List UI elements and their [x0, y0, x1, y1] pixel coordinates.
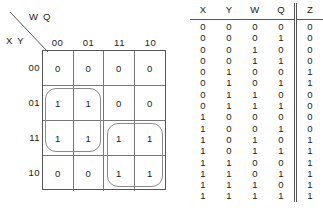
- truth-table-cell-y: 0: [216, 123, 242, 134]
- truth-table-row: 00100: [190, 44, 323, 55]
- kmap-cell: 0: [135, 86, 165, 121]
- karnaugh-map-figure: W Q X Y 00 01 11 10 00 01 11 10 0 0 0 0 …: [0, 0, 180, 219]
- kmap-column-header-2: 11: [104, 36, 135, 49]
- truth-table-cell-q: 0: [268, 157, 296, 168]
- truth-table-row: 00010: [190, 32, 323, 43]
- truth-table-cell-q: 0: [268, 111, 296, 122]
- truth-table-row: 01110: [190, 100, 323, 111]
- truth-table-cell-x: 0: [190, 89, 216, 100]
- kmap-row-header-1: 01: [10, 85, 40, 120]
- truth-table-cell-q: 0: [268, 134, 296, 145]
- kmap-column-variable-label: W Q: [29, 12, 52, 22]
- truth-table-cell-z: 0: [296, 55, 323, 66]
- kmap-grid-row: 0 0 0 0: [43, 51, 165, 86]
- kmap-cell: 1: [43, 86, 74, 121]
- truth-table-cell-w: 1: [242, 145, 268, 156]
- truth-table-row: 10000: [190, 111, 323, 122]
- kmap-cell: 1: [135, 156, 165, 191]
- truth-table-column-header-z: Z: [296, 3, 323, 20]
- truth-table-column-header-q: Q: [268, 3, 296, 20]
- truth-table-figure: X Y W Q Z 000000001000100001100100101011…: [186, 0, 323, 219]
- kmap-cell: 0: [104, 86, 135, 121]
- kmap-cell: 1: [43, 121, 74, 156]
- kmap-column-headers: 00 01 11 10: [42, 36, 166, 49]
- truth-table-cell-x: 1: [190, 157, 216, 168]
- truth-table-cell-y: 1: [216, 190, 242, 201]
- truth-table-body: 0000000010001000011001001010110110001110…: [190, 20, 323, 202]
- kmap-row-header-0: 00: [10, 50, 40, 85]
- truth-table-cell-z: 1: [296, 77, 323, 88]
- truth-table-cell-y: 1: [216, 179, 242, 190]
- truth-table-cell-y: 1: [216, 168, 242, 179]
- truth-table-cell-x: 1: [190, 123, 216, 134]
- truth-table-cell-y: 0: [216, 111, 242, 122]
- truth-table-cell-x: 0: [190, 66, 216, 77]
- truth-table-cell-w: 1: [242, 179, 268, 190]
- kmap-cell: 0: [135, 51, 165, 86]
- truth-table-cell-z: 1: [296, 134, 323, 145]
- truth-table-cell-q: 1: [268, 32, 296, 43]
- truth-table-cell-y: 1: [216, 77, 242, 88]
- truth-table-cell-w: 0: [242, 77, 268, 88]
- truth-table-row: 11111: [190, 190, 323, 201]
- kmap-grid-row: 0 0 1 1: [43, 156, 165, 191]
- truth-table-cell-w: 1: [242, 134, 268, 145]
- kmap-cell: 1: [135, 121, 165, 156]
- truth-table-row: 00110: [190, 55, 323, 66]
- truth-table-cell-z: 0: [296, 32, 323, 43]
- kmap-cell: 1: [74, 121, 105, 156]
- kmap-cell: 1: [104, 121, 135, 156]
- truth-table-cell-y: 0: [216, 32, 242, 43]
- truth-table-row: 11011: [190, 168, 323, 179]
- truth-table-row: 10010: [190, 123, 323, 134]
- truth-table-row: 11101: [190, 179, 323, 190]
- truth-table-cell-w: 0: [242, 157, 268, 168]
- truth-table-cell-y: 1: [216, 100, 242, 111]
- truth-table-cell-w: 1: [242, 190, 268, 201]
- kmap-grid-row: 1 1 1 1: [43, 121, 165, 156]
- truth-table-cell-z: 0: [296, 44, 323, 55]
- truth-table-cell-w: 1: [242, 100, 268, 111]
- truth-table-cell-y: 0: [216, 134, 242, 145]
- truth-table-cell-q: 0: [268, 20, 296, 33]
- truth-table-cell-z: 0: [296, 123, 323, 134]
- truth-table-cell-x: 1: [190, 134, 216, 145]
- truth-table-cell-y: 1: [216, 66, 242, 77]
- truth-table-cell-x: 0: [190, 32, 216, 43]
- truth-table: X Y W Q Z 000000001000100001100100101011…: [190, 3, 323, 202]
- kmap-column-header-1: 01: [73, 36, 104, 49]
- truth-table-cell-y: 0: [216, 20, 242, 33]
- truth-table-cell-z: 0: [296, 111, 323, 122]
- kmap-cell: 0: [74, 156, 105, 191]
- truth-table-cell-w: 0: [242, 111, 268, 122]
- kmap-column-header-3: 10: [135, 36, 166, 49]
- truth-table-cell-z: 1: [296, 179, 323, 190]
- truth-table-column-header-w: W: [242, 3, 268, 20]
- truth-table-cell-q: 0: [268, 44, 296, 55]
- truth-table-row: 10101: [190, 134, 323, 145]
- truth-table-cell-q: 1: [268, 77, 296, 88]
- truth-table-cell-x: 0: [190, 77, 216, 88]
- kmap-cell: 0: [104, 51, 135, 86]
- truth-table-row: 11001: [190, 157, 323, 168]
- truth-table-row: 01001: [190, 66, 323, 77]
- truth-table-cell-x: 0: [190, 55, 216, 66]
- truth-table-cell-y: 1: [216, 89, 242, 100]
- truth-table-header-row: X Y W Q Z: [190, 3, 323, 20]
- truth-table-cell-z: 1: [296, 157, 323, 168]
- kmap-row-variable-label: X Y: [6, 36, 25, 46]
- truth-table-cell-z: 1: [296, 66, 323, 77]
- truth-table-cell-z: 0: [296, 20, 323, 33]
- kmap-cell: 0: [74, 51, 105, 86]
- truth-table-cell-q: 1: [268, 168, 296, 179]
- truth-table-cell-y: 0: [216, 145, 242, 156]
- truth-table-cell-w: 0: [242, 123, 268, 134]
- truth-table-cell-x: 1: [190, 145, 216, 156]
- truth-table-cell-y: 0: [216, 44, 242, 55]
- truth-table-row: 01011: [190, 77, 323, 88]
- truth-table-cell-w: 1: [242, 44, 268, 55]
- kmap-cell: 1: [74, 86, 105, 121]
- truth-table-cell-q: 1: [268, 190, 296, 201]
- truth-table-cell-z: 1: [296, 190, 323, 201]
- truth-table-cell-w: 1: [242, 55, 268, 66]
